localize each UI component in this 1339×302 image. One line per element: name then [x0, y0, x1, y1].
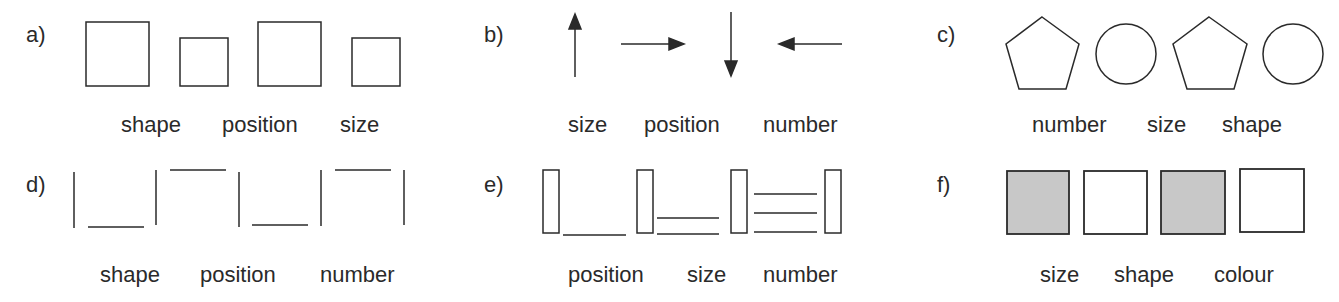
option-3: number: [320, 262, 395, 288]
panel-c: c) number size shape: [900, 0, 1339, 150]
option-1: size: [568, 112, 607, 138]
panel-f: f) size shape colour: [900, 150, 1339, 302]
panel-a: a) shape position size: [0, 0, 450, 150]
answer-options: size position number: [450, 112, 900, 142]
option-3: number: [763, 262, 838, 288]
option-1: number: [1032, 112, 1107, 138]
option-2: position: [644, 112, 720, 138]
answer-options: size shape colour: [900, 262, 1339, 292]
option-1: shape: [121, 112, 181, 138]
answer-options: shape position size: [0, 112, 450, 142]
answer-options: shape position number: [0, 262, 450, 292]
option-3: size: [340, 112, 379, 138]
option-2: position: [200, 262, 276, 288]
option-2: shape: [1114, 262, 1174, 288]
option-2: size: [1147, 112, 1186, 138]
option-1: position: [568, 262, 644, 288]
option-3: shape: [1222, 112, 1282, 138]
panel-b: b) size position number: [450, 0, 900, 150]
option-2: position: [222, 112, 298, 138]
panel-e: e) position size number: [450, 150, 900, 302]
answer-options: position size number: [450, 262, 900, 292]
panel-d: d) shape position number: [0, 150, 450, 302]
option-1: shape: [100, 262, 160, 288]
answer-options: number size shape: [900, 112, 1339, 142]
option-2: size: [687, 262, 726, 288]
option-3: number: [763, 112, 838, 138]
option-3: colour: [1214, 262, 1274, 288]
option-1: size: [1040, 262, 1079, 288]
